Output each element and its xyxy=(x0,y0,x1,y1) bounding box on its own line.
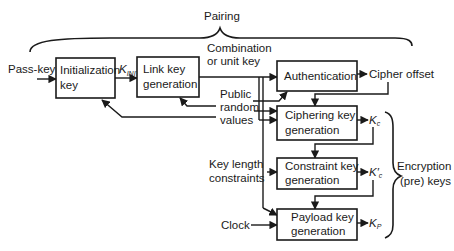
public-to-link-arrow xyxy=(180,98,216,106)
link-box-line2: generation xyxy=(143,78,197,90)
payload-box-line1: Payload key xyxy=(291,211,354,223)
encryption-keys-label-1: Encryption xyxy=(397,160,451,172)
combination-key-label-2: or unit key xyxy=(207,55,260,67)
authentication-box: Authentication xyxy=(277,61,357,91)
payload-box-line2: generation xyxy=(291,225,345,237)
key-length-label-1: Key length xyxy=(209,158,263,170)
auth-box-label: Authentication xyxy=(284,70,357,82)
init-box-line2: key xyxy=(60,79,78,91)
clock-label: Clock xyxy=(221,219,250,231)
encryption-keys-label-2: (pre) keys xyxy=(400,175,451,187)
key-length-label-2: constraints xyxy=(209,172,265,184)
public-random-label-2: random xyxy=(220,101,259,113)
init-box-line1: Initialization xyxy=(60,64,120,76)
constr-box-line2: generation xyxy=(285,174,339,186)
public-to-init-arrow xyxy=(102,100,216,117)
ciphering-key-generation-box: Ciphering key generation xyxy=(277,106,357,140)
encryption-keys-brace xyxy=(385,112,401,238)
bluetooth-key-hierarchy-diagram: Pairing Pass-key Initialization key KINI… xyxy=(0,0,454,251)
ciph-box-line2: generation xyxy=(285,124,339,136)
public-random-label-3: values xyxy=(220,114,253,126)
combination-key-label-1: Combination xyxy=(207,42,272,54)
initialization-key-box: Initialization key xyxy=(56,58,120,98)
trunk2-to-payload-arrow xyxy=(263,208,277,215)
cipher-offset-label: Cipher offset xyxy=(369,68,435,80)
payload-key-generation-box: Payload key generation xyxy=(277,209,357,240)
constr-box-line1: Constraint key xyxy=(285,160,359,172)
pass-key-label: Pass-key xyxy=(8,63,56,75)
link-key-generation-box: Link key generation xyxy=(137,57,199,97)
pairing-title: Pairing xyxy=(204,10,240,22)
ciph-box-line1: Ciphering key xyxy=(285,109,356,121)
public-to-auth-arrow xyxy=(253,92,287,101)
kp-label: KP xyxy=(369,217,382,230)
kc-prime-label: K′c xyxy=(369,166,383,179)
constraint-key-generation-box: Constraint key generation xyxy=(277,158,359,189)
public-random-label-1: Public xyxy=(220,88,252,100)
kc-label: Kc xyxy=(369,114,381,127)
link-box-line1: Link key xyxy=(143,63,185,75)
